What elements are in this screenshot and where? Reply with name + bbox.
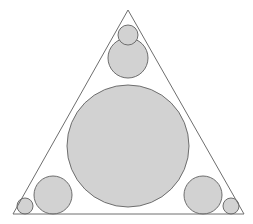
geometry-figure [0,0,253,224]
incircle-large [67,85,189,207]
bottom-right-medium-circle [184,176,222,214]
bottom-left-medium-circle [34,176,72,214]
figure-canvas [0,0,253,224]
apex-small-circle [118,25,138,45]
bottom-left-small-circle [17,198,33,214]
circles-layer [17,25,239,214]
